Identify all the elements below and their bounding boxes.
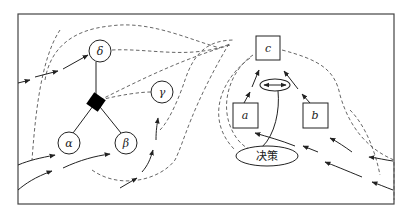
node-a: a: [233, 103, 258, 128]
node-decision: 决策: [236, 146, 298, 166]
incoming-arrows-left: [18, 55, 158, 190]
node-c-label: c: [265, 42, 271, 55]
diagram-frame: [18, 14, 394, 204]
node-gamma: γ: [151, 81, 173, 103]
switch-to-decision-line: [262, 91, 278, 147]
node-b-label: b: [311, 109, 318, 122]
node-b: b: [303, 103, 328, 128]
node-c: c: [256, 36, 280, 60]
diagram-canvas: δ γ α β c a: [0, 0, 414, 220]
node-decision-label: 决策: [256, 149, 278, 163]
dashed-flow-lines-left: [32, 25, 235, 181]
node-delta: δ: [89, 40, 111, 96]
node-beta: β: [115, 132, 137, 154]
switch-ellipse: [260, 79, 290, 91]
node-alpha-label: α: [65, 137, 73, 150]
node-alpha: α: [58, 132, 80, 154]
node-beta-label: β: [122, 137, 129, 150]
junction-diamond-icon: [86, 92, 105, 111]
node-delta-label: δ: [97, 45, 104, 58]
node-a-label: a: [242, 109, 249, 122]
node-gamma-label: γ: [159, 86, 166, 99]
